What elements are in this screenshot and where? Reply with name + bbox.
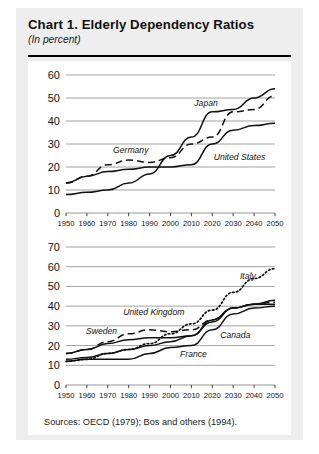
- svg-text:2040: 2040: [246, 219, 263, 228]
- svg-text:2010: 2010: [183, 219, 200, 228]
- svg-text:1990: 1990: [141, 391, 158, 400]
- svg-text:1960: 1960: [78, 219, 95, 228]
- chart-page: Chart 1. Elderly Dependency Ratios (In p…: [0, 0, 319, 454]
- source-band: Sources: OECD (1979); Bos and others (19…: [28, 413, 291, 435]
- svg-text:1970: 1970: [99, 391, 116, 400]
- series-label-sweden: Sweden: [86, 326, 117, 336]
- series-line-japan: [66, 89, 275, 195]
- svg-text:50: 50: [48, 92, 60, 104]
- series-line-germany: [66, 96, 275, 183]
- svg-text:0: 0: [54, 379, 60, 391]
- svg-text:70: 70: [48, 241, 60, 253]
- svg-text:2020: 2020: [204, 391, 221, 400]
- series-label-united-states: United States: [214, 152, 266, 162]
- svg-text:1980: 1980: [120, 219, 137, 228]
- svg-text:2000: 2000: [162, 219, 179, 228]
- series-label-united-kingdom: United Kingdom: [123, 307, 184, 317]
- svg-text:2030: 2030: [225, 391, 242, 400]
- svg-text:2050: 2050: [267, 219, 284, 228]
- page-title: Chart 1. Elderly Dependency Ratios: [28, 17, 303, 32]
- svg-text:2040: 2040: [246, 391, 263, 400]
- figure-header: Chart 1. Elderly Dependency Ratios (In p…: [16, 8, 303, 56]
- figure-card: Chart 1. Elderly Dependency Ratios (In p…: [16, 8, 303, 440]
- svg-text:0: 0: [54, 207, 60, 219]
- page-subtitle: (In percent): [28, 34, 303, 46]
- svg-text:2010: 2010: [183, 391, 200, 400]
- svg-text:2000: 2000: [162, 391, 179, 400]
- series-label-canada: Canada: [220, 330, 250, 340]
- series-label-france: France: [180, 349, 207, 359]
- svg-text:10: 10: [48, 184, 60, 196]
- svg-text:2050: 2050: [267, 391, 284, 400]
- plot-card: 0102030405060195019601970198019902000201…: [28, 61, 291, 413]
- svg-text:1950: 1950: [58, 391, 75, 400]
- svg-text:40: 40: [48, 115, 60, 127]
- chart-panel-bottom: 0102030405060701950196019701980199020002…: [28, 239, 291, 413]
- series-label-germany: Germany: [113, 145, 149, 155]
- source-note: Sources: OECD (1979); Bos and others (19…: [44, 417, 237, 427]
- svg-text:1980: 1980: [120, 391, 137, 400]
- svg-text:1950: 1950: [58, 219, 75, 228]
- svg-text:20: 20: [48, 161, 60, 173]
- svg-text:30: 30: [48, 138, 60, 150]
- series-label-japan: Japan: [193, 98, 218, 108]
- svg-text:50: 50: [48, 280, 60, 292]
- svg-text:40: 40: [48, 300, 60, 312]
- svg-text:20: 20: [48, 340, 60, 352]
- svg-text:60: 60: [48, 69, 60, 81]
- svg-text:1960: 1960: [78, 391, 95, 400]
- svg-text:1970: 1970: [99, 219, 116, 228]
- svg-text:60: 60: [48, 261, 60, 273]
- svg-text:2020: 2020: [204, 219, 221, 228]
- svg-text:2030: 2030: [225, 219, 242, 228]
- svg-text:10: 10: [48, 359, 60, 371]
- svg-text:1990: 1990: [141, 219, 158, 228]
- chart-panel-top: 0102030405060195019601970198019902000201…: [28, 61, 291, 239]
- svg-text:30: 30: [48, 320, 60, 332]
- title-divider: [28, 55, 291, 57]
- series-label-italy: Italy: [240, 271, 256, 281]
